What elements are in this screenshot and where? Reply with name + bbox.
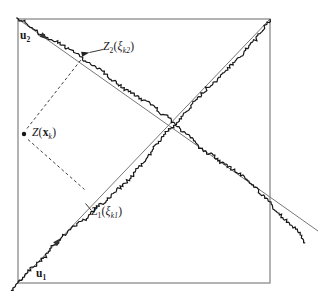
label-u1-sub: 1 (43, 273, 47, 282)
turning-bands-figure: u2 Z2(ξk2) Z(xk) Z1(ξk1) u1 (0, 0, 332, 301)
figure-svg (0, 0, 332, 301)
label-z-xk: Z(xk) (32, 127, 56, 139)
turning-band-line-u2 (18, 19, 318, 231)
label-z1-xi-k1: Z1(ξk1) (91, 206, 122, 218)
point-marker-zxk (22, 132, 26, 136)
z2-label-leader (90, 50, 104, 53)
label-z1-name: Z (91, 205, 98, 217)
label-z2-name: Z (103, 40, 110, 52)
label-u1: u1 (36, 268, 47, 280)
label-u2-base: u (20, 29, 27, 41)
simulated-process-walk-u2 (16, 18, 305, 243)
label-zx-name: Z (32, 126, 39, 138)
label-u1-base: u (36, 267, 43, 279)
projection-to-u2-dash (27, 59, 82, 129)
label-u2-sub: 2 (27, 35, 31, 44)
label-z1-close-paren: ) (118, 205, 122, 217)
projection-to-u1-dash (28, 140, 85, 190)
label-zx-close-paren: ) (52, 126, 56, 138)
z2-label-leader-arrowhead (81, 50, 90, 57)
label-z2-xi-k2: Z2(ξk2) (103, 41, 134, 53)
label-u2: u2 (20, 30, 31, 42)
label-z2-close-paren: ) (130, 40, 134, 52)
